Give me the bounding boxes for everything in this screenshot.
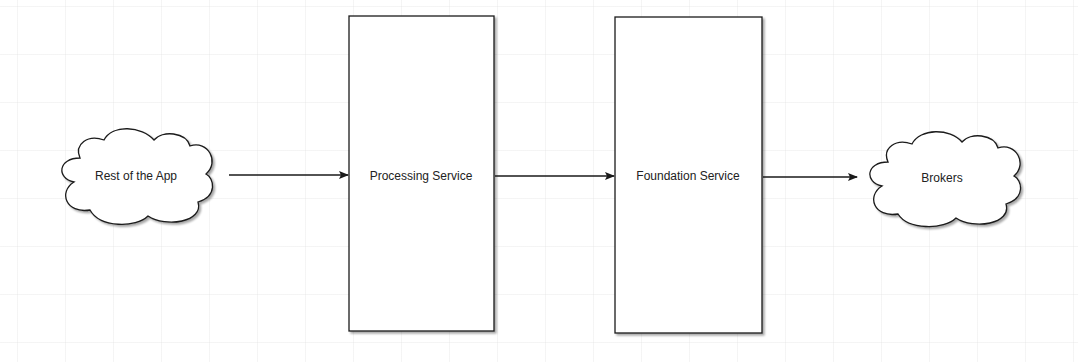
node-label-foundation-service: Foundation Service — [636, 169, 740, 183]
node-label-brokers: Brokers — [921, 171, 962, 185]
diagram-canvas: Rest of the App Processing Service Found… — [0, 0, 1078, 362]
node-label-rest-of-the-app: Rest of the App — [95, 169, 177, 183]
node-label-processing-service: Processing Service — [370, 169, 473, 183]
